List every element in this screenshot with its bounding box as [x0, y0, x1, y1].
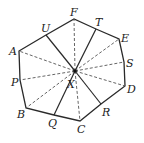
label-e: E [120, 32, 129, 45]
segment-xs [75, 62, 124, 71]
label-a: A [8, 45, 17, 58]
label-f: F [69, 6, 78, 19]
label-d: D [126, 83, 136, 96]
segment-xr [75, 71, 101, 104]
label-t: T [95, 16, 104, 29]
segment-xe [75, 39, 119, 71]
center-point-x [73, 69, 77, 73]
label-c: C [77, 123, 86, 136]
label-r: R [101, 106, 110, 119]
label-q: Q [48, 117, 57, 130]
segment-xc [75, 71, 80, 121]
label-p: P [10, 76, 19, 89]
segment-xf [74, 19, 75, 71]
label-u: U [41, 22, 51, 35]
segment-xt [75, 29, 96, 71]
label-b: B [16, 108, 25, 121]
label-x: X [66, 78, 76, 91]
label-s: S [126, 57, 134, 70]
segment-xd [75, 71, 125, 86]
hexagon-diagram: F T E S D R C Q B P A U X [0, 0, 144, 143]
